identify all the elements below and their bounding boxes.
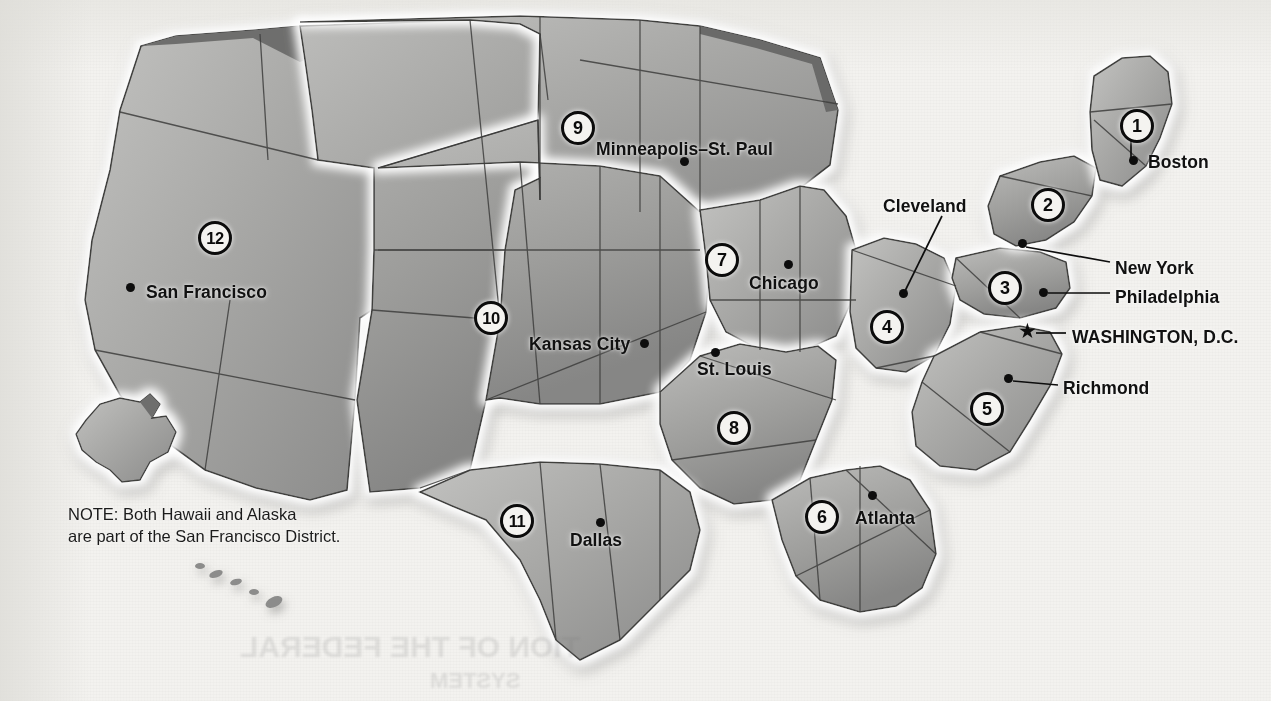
district-badge-8[interactable]: 8 [717,411,751,445]
district-badge-3[interactable]: 3 [988,271,1022,305]
district-badge-label: 9 [573,119,583,137]
city-dot-new-york [1018,239,1027,248]
district-badge-9[interactable]: 9 [561,111,595,145]
district-badge-label: 4 [882,318,892,336]
map-note: NOTE: Both Hawaii and Alaska are part of… [68,503,340,548]
district-6-region [772,466,936,612]
district-badge-label: 6 [817,508,827,526]
city-dot-atlanta [868,491,877,500]
city-dot-kansas-city [640,339,649,348]
ghost-text-line1: TION OF THE FEDERAL [240,630,580,664]
city-dot-cleveland [899,289,908,298]
district-badge-2[interactable]: 2 [1031,188,1065,222]
city-label-boston: Boston [1148,152,1209,173]
city-label-new-york: New York [1115,258,1194,279]
district-badge-10[interactable]: 10 [474,301,508,335]
district-badge-1[interactable]: 1 [1120,109,1154,143]
district-badge-label: 5 [982,400,992,418]
city-dot-dallas [596,518,605,527]
district-badge-label: 8 [729,419,739,437]
hawaii-inset [195,563,284,610]
city-label-atlanta: Atlanta [855,508,915,529]
district-badge-label: 11 [509,513,525,530]
district-badge-12[interactable]: 12 [198,221,232,255]
city-label-washington-d-c: WASHINGTON, D.C. [1072,327,1239,348]
city-label-dallas: Dallas [570,530,622,551]
city-label-chicago: Chicago [749,273,819,294]
district-badge-label: 2 [1043,196,1053,214]
city-label-san-francisco: San Francisco [146,282,267,303]
city-label-kansas-city: Kansas City [529,334,630,355]
district-badge-11[interactable]: 11 [500,504,534,538]
city-label-minneapolis-st-paul: Minneapolis–St. Paul [596,139,773,160]
district-4-region [850,238,956,372]
city-label-st-louis: St. Louis [697,359,772,380]
capital-star-icon: ★ [1018,320,1037,341]
city-label-richmond: Richmond [1063,378,1149,399]
district-badge-label: 12 [206,230,223,247]
district-badge-5[interactable]: 5 [970,392,1004,426]
district-badge-label: 10 [482,310,499,327]
district-badge-label: 7 [717,251,727,269]
city-dot-philadelphia [1039,288,1048,297]
city-dot-boston [1129,156,1138,165]
city-dot-chicago [784,260,793,269]
city-label-cleveland: Cleveland [883,196,967,217]
district-badge-label: 1 [1132,117,1142,135]
district-badge-7[interactable]: 7 [705,243,739,277]
ghost-text-line2: SYSTEM [430,668,520,694]
city-dot-san-francisco [126,283,135,292]
city-label-philadelphia: Philadelphia [1115,287,1219,308]
city-dot-richmond [1004,374,1013,383]
district-badge-label: 3 [1000,279,1010,297]
city-dot-st-louis [711,348,720,357]
us-federal-reserve-districts-map [0,0,1271,701]
district-badge-6[interactable]: 6 [805,500,839,534]
district-badge-4[interactable]: 4 [870,310,904,344]
